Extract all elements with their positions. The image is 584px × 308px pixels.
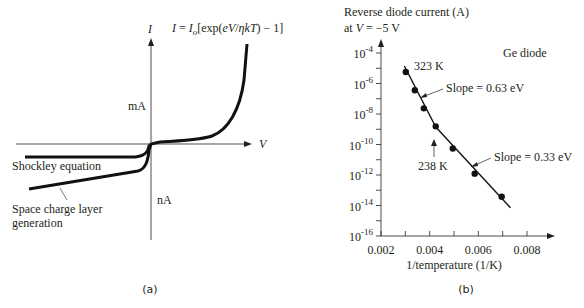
y-tick-label: 10-12 [349, 166, 373, 183]
slope-low-label: Slope = 0.33 eV [494, 150, 572, 164]
x-tick-label: 0.008 [514, 243, 541, 257]
data-point [450, 145, 456, 151]
temp-238-arrowhead [431, 139, 437, 146]
temp-323-label: 323 K [414, 59, 444, 73]
shockley-reverse-curve [25, 144, 151, 157]
y-tick-label: 10-10 [349, 136, 373, 153]
figure: I V I = Io[exp(eV/ηkT) − 1] mA nA Shockl… [0, 0, 584, 308]
x-axis-arrow [547, 233, 555, 239]
slope-low-arrowhead [471, 162, 478, 167]
space-charge-label-2: generation [12, 216, 63, 230]
equation-label: I = Io[exp(eV/ηkT) − 1] [171, 21, 283, 37]
chart-a: I V I = Io[exp(eV/ηkT) − 1] mA nA Shockl… [12, 21, 283, 296]
v-axis-arrow [244, 141, 252, 147]
data-point [471, 170, 477, 176]
data-point [421, 105, 427, 111]
data-point [403, 69, 409, 75]
v-axis-label: V [259, 137, 268, 151]
y-tick-label: 10-8 [354, 105, 374, 122]
lower-unit-label: nA [157, 193, 172, 207]
slope-high-label: Slope = 0.63 eV [446, 81, 524, 95]
y-tick-label: 10-16 [349, 227, 373, 244]
fit-line [404, 66, 435, 127]
space-charge-label-1: Space charge layer [12, 202, 102, 216]
space-charge-pointer [60, 188, 67, 200]
slope-high-arrowhead [420, 93, 427, 98]
x-ticks: 0.0020.0040.0060.008 [368, 231, 541, 257]
data-point [433, 123, 439, 129]
caption-a: (a) [142, 283, 157, 296]
y-tick-label: 10-4 [354, 44, 374, 61]
i-axis-arrow [148, 38, 154, 46]
chart-b: Reverse diode current (A) at V = −5 V 10… [344, 5, 572, 296]
chart-title: Ge diode [503, 46, 547, 60]
y-tick-label: 10-14 [349, 197, 373, 214]
data-point [412, 87, 418, 93]
data-point [498, 194, 504, 200]
caption-b: (b) [458, 283, 474, 296]
y-axis-title-line1: Reverse diode current (A) [344, 5, 469, 19]
x-tick-label: 0.002 [368, 243, 395, 257]
x-tick-label: 0.006 [465, 243, 492, 257]
y-axis-arrow [378, 39, 384, 47]
upper-unit-label: mA [128, 99, 146, 113]
temp-238-label: 238 K [418, 159, 448, 173]
x-axis-title: 1/temperature (1/K) [406, 258, 502, 272]
y-axis-title-line2: at V = −5 V [344, 21, 400, 35]
i-axis-label: I [147, 22, 153, 36]
y-tick-label: 10-6 [354, 75, 374, 92]
x-tick-label: 0.004 [416, 243, 443, 257]
forward-curve [151, 44, 247, 144]
y-ticks: 10-410-610-810-1010-1210-1410-16 [349, 44, 381, 244]
shockley-label: Shockley equation [12, 159, 101, 173]
